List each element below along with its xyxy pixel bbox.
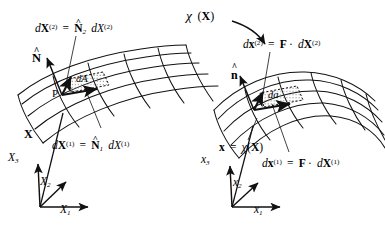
eq-current-position: x = χ(X) [219, 141, 263, 154]
axis-X3-label: X3 [8, 152, 19, 165]
reference-area-label: dA [76, 74, 88, 85]
axis-X1-label: X1 [60, 204, 71, 217]
current-position-vector [232, 126, 253, 207]
axis-x2-label: x2 [233, 177, 242, 190]
figure-canvas: χ (X) dX(2) = ^N2 dX(2) ^N P dA X dX(1) … [0, 0, 385, 233]
current-area-label: da [268, 90, 279, 101]
current-normal-label: ^n [231, 69, 238, 81]
eq-dX2: dX(2) = ^N2 dX(2) [35, 23, 112, 36]
current-area-element [260, 86, 303, 107]
reference-point-label: P [52, 88, 58, 99]
eq-dx2: dx(2) = F · dX(2) [243, 39, 320, 51]
reference-position-label: X [24, 128, 33, 140]
axis-x1-label: x1 [254, 204, 263, 217]
axis-x3-line [230, 166, 232, 207]
reference-position-vector [40, 113, 63, 207]
reference-normal-label: ^N [32, 52, 41, 65]
eq-dX1: dX(1) = ^N1 dX(1) [52, 140, 129, 153]
axis-x3-label: x3 [201, 154, 210, 167]
deformation-map-label: χ (X) [186, 9, 214, 23]
axis-X2-label: X2 [40, 176, 51, 189]
current-dx2-arrow [254, 92, 263, 110]
eq-dx1: dx(1) = F · dX(1) [262, 158, 339, 170]
